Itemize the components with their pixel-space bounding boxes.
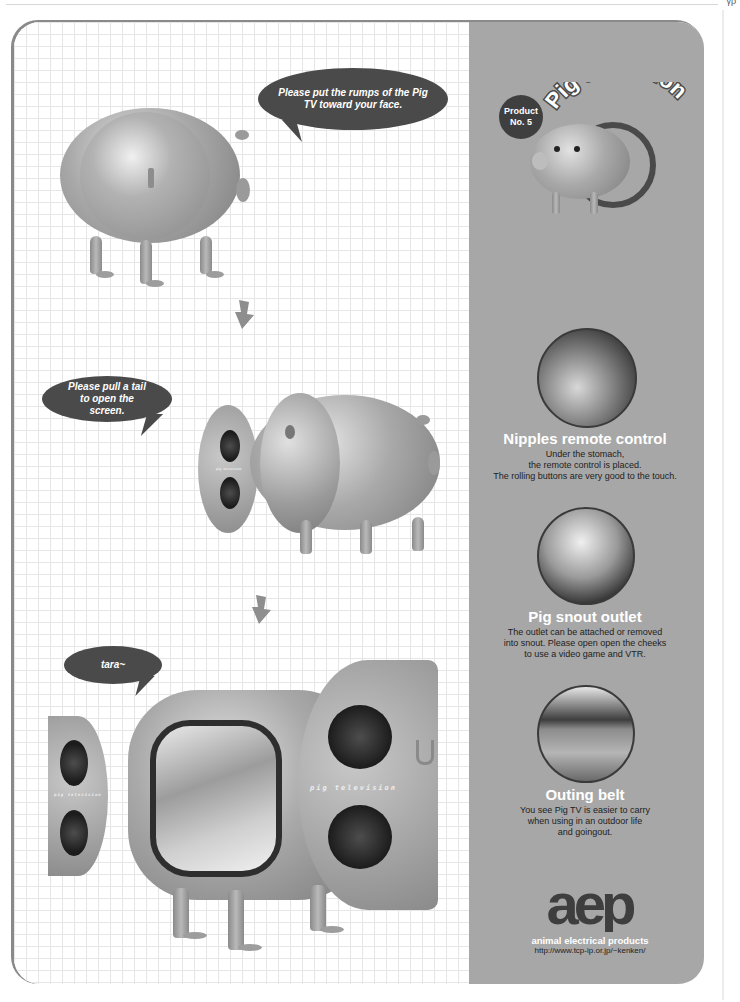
logo-text: aep — [547, 882, 636, 932]
feature-title: Outing belt — [475, 786, 695, 803]
svg-text:Pig television: Pig television — [540, 82, 692, 113]
desc-line: You see Pig TV is easier to carry — [470, 805, 700, 816]
feature-description: The outlet can be attached or removed in… — [470, 627, 700, 660]
feature-image-snout-outlet — [537, 507, 635, 605]
door-brand-text: pig television — [310, 784, 397, 792]
speech-bubble-step-1: Please put the rumps of the Pig TV towar… — [258, 68, 448, 130]
desc-line: to use a video game and VTR. — [470, 649, 700, 660]
feature-description: Under the stomach, the remote control is… — [470, 449, 700, 482]
desc-line: into snout. Please open open the cheeks — [470, 638, 700, 649]
page-mark: γρ — [726, 0, 736, 6]
desc-line: and goingout. — [470, 827, 700, 838]
desc-line: when using in an outdoor life — [470, 816, 700, 827]
tv-screen-rocket-launch — [150, 720, 282, 877]
desc-line: The rolling buttons are very good to the… — [470, 471, 700, 482]
side-brand-text: pig television — [216, 467, 241, 471]
desc-line: The outlet can be attached or removed — [470, 627, 700, 638]
feature-title: Pig snout outlet — [475, 608, 695, 625]
product-title: Pig television — [540, 82, 692, 113]
company-url[interactable]: http://www.tcp-ip.or.jp/~kenken/ — [485, 946, 695, 955]
feature-title: Nipples remote control — [475, 430, 695, 447]
desc-line: the remote control is placed. — [470, 460, 700, 471]
side-brand-text: pig television — [54, 792, 102, 797]
aep-logo: aep — [523, 882, 655, 932]
top-rule — [6, 4, 718, 5]
arrow-down-icon — [233, 300, 255, 330]
product-title-arc: Pig television — [536, 82, 736, 202]
pig-tv-open-illustration: pig television pig television — [48, 660, 448, 960]
arrow-down-icon — [250, 595, 272, 625]
feature-image-remote — [537, 328, 637, 428]
bubble-text: Please put the rumps of the Pig TV towar… — [278, 87, 428, 111]
speech-bubble-step-2: Please pull a tail to open the screen. — [42, 376, 172, 422]
pig-opening-illustration: pig television — [190, 385, 450, 560]
feature-image-outing-belt — [537, 685, 635, 783]
pig-rear-view-illustration — [60, 108, 270, 283]
bubble-text: Please pull a tail to open the screen. — [62, 381, 152, 417]
desc-line: Under the stomach, — [470, 449, 700, 460]
feature-description: You see Pig TV is easier to carry when u… — [470, 805, 700, 838]
company-name: animal electrical products — [485, 935, 695, 946]
